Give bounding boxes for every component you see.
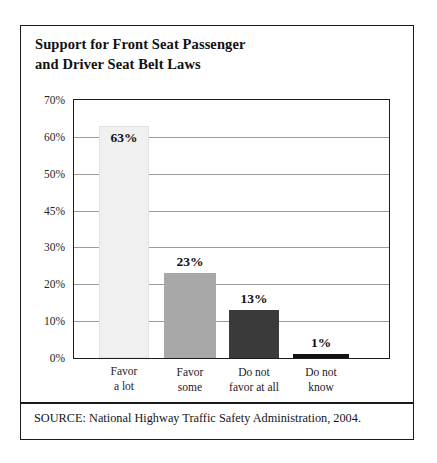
source-divider [21, 402, 413, 404]
x-axis-label-line: favor at all [229, 380, 279, 395]
x-axis-label-line: Do not [229, 365, 279, 380]
x-axis-category-label: Favora lot [111, 364, 138, 393]
bar: 13%Do notfavor at all [229, 310, 279, 358]
y-axis-tick-label: 10% [44, 315, 65, 327]
x-axis-category-label: Do notknow [305, 365, 337, 394]
plot-area: 70%60%50%45%30%20%10%0%63%Favora lot23%F… [73, 99, 390, 359]
bar-value-label: 13% [241, 291, 268, 307]
x-axis-category-label: Do notfavor at all [229, 365, 279, 394]
y-axis-tick-label: 50% [44, 168, 65, 180]
x-axis-label-line: know [305, 380, 337, 395]
bar: 1%Do notknow [293, 354, 349, 358]
y-axis-tick-label: 20% [44, 278, 65, 290]
x-axis-label-line: some [177, 380, 204, 395]
y-axis-tick-label: 30% [44, 241, 65, 253]
x-axis-label-line: Do not [305, 365, 337, 380]
y-axis-tick-label: 60% [44, 131, 65, 143]
x-axis-label-line: Favor [111, 364, 138, 379]
bar: 23%Favorsome [164, 273, 216, 358]
figure-frame: Support for Front Seat Passenger and Dri… [20, 25, 414, 440]
bar-value-label: 63% [111, 130, 138, 146]
bar: 63%Favora lot [99, 126, 149, 358]
y-axis-tick-label: 45% [44, 205, 65, 217]
x-axis-category-label: Favorsome [177, 365, 204, 394]
x-axis-label-line: Favor [177, 365, 204, 380]
x-axis-label-line: a lot [111, 379, 138, 394]
source-note: SOURCE: National Highway Traffic Safety … [34, 411, 361, 426]
bar-value-label: 23% [177, 254, 204, 270]
page-title: Support for Front Seat Passenger and Dri… [35, 34, 385, 74]
title-line-1: Support for Front Seat Passenger [35, 34, 385, 54]
y-axis-tick-label: 70% [44, 94, 65, 106]
y-axis-tick-label: 0% [50, 352, 65, 364]
bar-value-label: 1% [311, 335, 331, 351]
title-line-2: and Driver Seat Belt Laws [35, 54, 385, 74]
